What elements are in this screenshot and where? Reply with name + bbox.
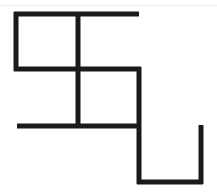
line-figure	[0, 0, 217, 192]
